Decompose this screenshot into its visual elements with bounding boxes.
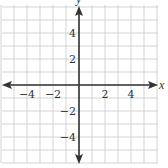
coordinate-plane: −4−22442−2−4 x y [0,0,168,168]
y-tick-label: 2 [69,53,76,66]
axes [2,6,158,164]
y-tick-label: −2 [60,105,76,118]
x-tick-label: −2 [45,88,61,101]
y-axis-label: y [75,0,82,6]
x-tick-label: −4 [19,88,35,101]
y-tick-label: −4 [60,131,76,144]
x-axis-label: x [158,78,165,92]
x-tick-label: 4 [128,88,135,101]
y-tick-label: 4 [69,27,76,40]
x-tick-label: 2 [102,88,109,101]
